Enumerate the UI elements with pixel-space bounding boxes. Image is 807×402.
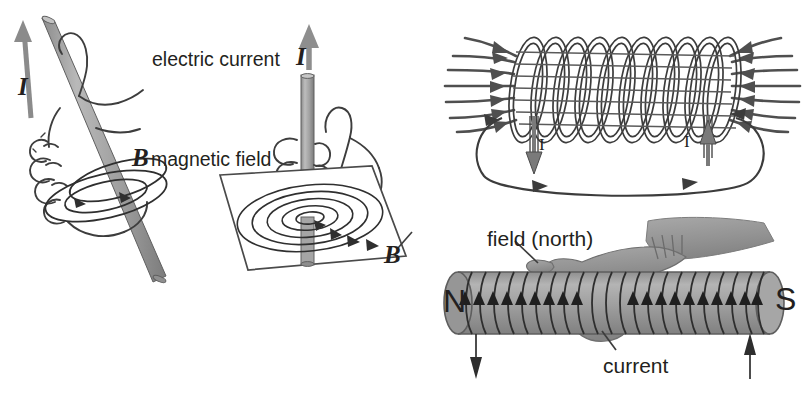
label-current-symbol: I <box>296 44 306 69</box>
label-field-symbol: B <box>132 145 149 170</box>
label-current: current <box>603 355 668 376</box>
up-arrow-icon-south-pole <box>744 333 756 379</box>
solenoid-field-drawing <box>440 8 807 208</box>
arrow-icon-loop-flow <box>532 178 698 192</box>
panel-solenoid-field <box>440 8 807 208</box>
figure-root: electric current I I B magnetic field B … <box>0 0 807 402</box>
up-arrow-icon-current-left <box>14 20 32 118</box>
down-arrow-icon-north-pole <box>470 334 482 379</box>
label-pole-north: N <box>443 285 466 317</box>
label-current-symbol-left: I <box>18 74 28 99</box>
label-solenoid-current-left: I <box>539 136 545 153</box>
label-magnetic-field: magnetic field <box>151 150 271 170</box>
label-solenoid-current-right: I <box>684 133 690 150</box>
solenoid-circuit-loop <box>477 118 764 196</box>
label-field-symbol-plane: B <box>384 242 401 267</box>
label-field-north: field (north) <box>487 228 593 249</box>
label-pole-south: S <box>775 283 796 315</box>
label-electric-current: electric current <box>152 50 280 70</box>
